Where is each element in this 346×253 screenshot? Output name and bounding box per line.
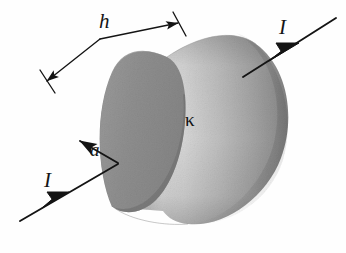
height-label: h: [99, 11, 110, 32]
height-arrow-right: [100, 23, 178, 39]
current-out-label: I: [279, 17, 286, 38]
current-in-arrow: [20, 164, 118, 221]
figure-canvas: h a I I κ: [0, 0, 346, 253]
current-in-head: [42, 192, 69, 208]
current-in-label: I: [44, 170, 51, 191]
height-arrow-left: [47, 39, 100, 81]
cylinder-diagram-svg: [0, 0, 346, 253]
current-out-head: [269, 43, 299, 61]
conductivity-label: κ: [185, 110, 195, 129]
radius-label: a: [90, 140, 100, 159]
height-tick-left: [40, 70, 55, 93]
